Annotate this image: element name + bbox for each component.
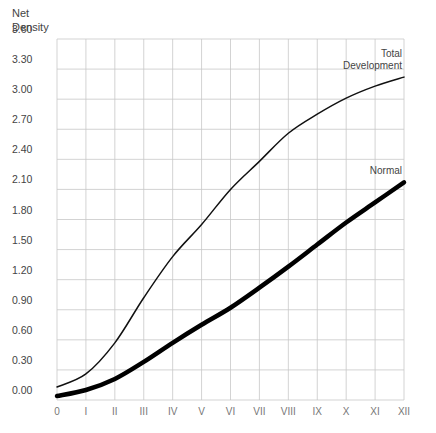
- x-tick-label: XII: [398, 406, 410, 417]
- y-axis-ticks: 0.000.300.600.901.201.501.802.102.402.70…: [12, 23, 33, 396]
- y-tick-label: 2.70: [12, 113, 33, 125]
- x-tick-label: III: [140, 406, 148, 417]
- x-tick-label: VII: [253, 406, 265, 417]
- plot-area: 0.000.300.600.901.201.501.802.102.402.70…: [0, 0, 436, 433]
- series-labels: TotalDevelopmentNormal: [343, 48, 402, 176]
- x-tick-label: VIII: [281, 406, 296, 417]
- x-tick-label: XI: [370, 406, 379, 417]
- y-tick-label: 2.10: [12, 173, 33, 185]
- x-tick-label: 0: [54, 406, 60, 417]
- y-tick-label: 3.60: [12, 23, 33, 35]
- y-tick-label: 1.50: [12, 234, 33, 246]
- y-tick-label: 3.00: [12, 83, 33, 95]
- y-tick-label: 0.90: [12, 294, 33, 306]
- chart: Net Density 0.000.300.600.901.201.501.80…: [0, 0, 436, 433]
- x-tick-label: IV: [168, 406, 178, 417]
- y-tick-label: 1.20: [12, 264, 33, 276]
- y-tick-label: 1.80: [12, 204, 33, 216]
- series-label: Total: [381, 48, 402, 59]
- x-tick-label: X: [343, 406, 350, 417]
- y-tick-label: 3.30: [12, 53, 33, 65]
- y-tick-label: 2.40: [12, 143, 33, 155]
- x-tick-label: II: [112, 406, 118, 417]
- x-axis-ticks: 0IIIIIIIVVVIVIIVIIIIXXXIXII: [54, 406, 410, 417]
- x-tick-label: V: [198, 406, 205, 417]
- series-label: Development: [343, 60, 402, 71]
- x-tick-label: VI: [226, 406, 235, 417]
- x-tick-label: IX: [313, 406, 323, 417]
- y-tick-label: 0.60: [12, 324, 33, 336]
- series-label: Normal: [370, 165, 402, 176]
- y-tick-label: 0.00: [12, 384, 33, 396]
- x-tick-label: I: [85, 406, 88, 417]
- y-tick-label: 0.30: [12, 354, 33, 366]
